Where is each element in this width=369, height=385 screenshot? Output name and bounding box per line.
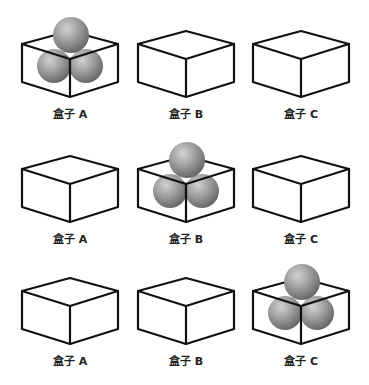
box-back-rim <box>138 278 234 291</box>
box-label: 盒子 A <box>52 354 88 368</box>
box-c: 盒子 C <box>253 264 349 368</box>
box-label: 盒子 C <box>283 354 318 368</box>
box-label: 盒子 B <box>168 232 203 246</box>
box-b: 盒子 B <box>138 31 234 121</box>
box-back-rim <box>253 31 349 44</box>
ball <box>53 17 89 53</box>
box-label: 盒子 B <box>168 107 203 121</box>
box-back-rim <box>22 278 118 291</box>
box-front-rim <box>22 169 118 184</box>
box-label: 盒子 B <box>168 354 203 368</box>
box-label: 盒子 A <box>52 232 88 246</box>
box-back-rim <box>253 156 349 169</box>
row-1: 盒子 A盒子 B盒子 C <box>22 17 349 121</box>
box-front-rim <box>253 44 349 59</box>
box-front-rim <box>138 44 234 59</box>
box-back-rim <box>138 31 234 44</box>
box-front-rim <box>138 291 234 306</box>
box-a: 盒子 A <box>22 156 118 246</box>
box-a: 盒子 A <box>22 17 118 121</box>
ball <box>169 142 205 178</box>
ball <box>284 264 320 300</box>
box-label: 盒子 C <box>283 107 318 121</box>
box-a: 盒子 A <box>22 278 118 368</box>
box-back-rim <box>22 156 118 169</box>
box-label: 盒子 A <box>52 107 88 121</box>
box-ball-diagram: 盒子 A盒子 B盒子 C盒子 A盒子 B盒子 C盒子 A盒子 B盒子 C <box>0 0 369 385</box>
row-2: 盒子 A盒子 B盒子 C <box>22 142 349 246</box>
box-front-rim <box>253 169 349 184</box>
scene: 盒子 A盒子 B盒子 C盒子 A盒子 B盒子 C盒子 A盒子 B盒子 C <box>22 17 349 368</box>
row-3: 盒子 A盒子 B盒子 C <box>22 264 349 368</box>
box-front-rim <box>22 291 118 306</box>
box-label: 盒子 C <box>283 232 318 246</box>
box-b: 盒子 B <box>138 142 234 246</box>
box-c: 盒子 C <box>253 31 349 121</box>
box-b: 盒子 B <box>138 278 234 368</box>
box-c: 盒子 C <box>253 156 349 246</box>
